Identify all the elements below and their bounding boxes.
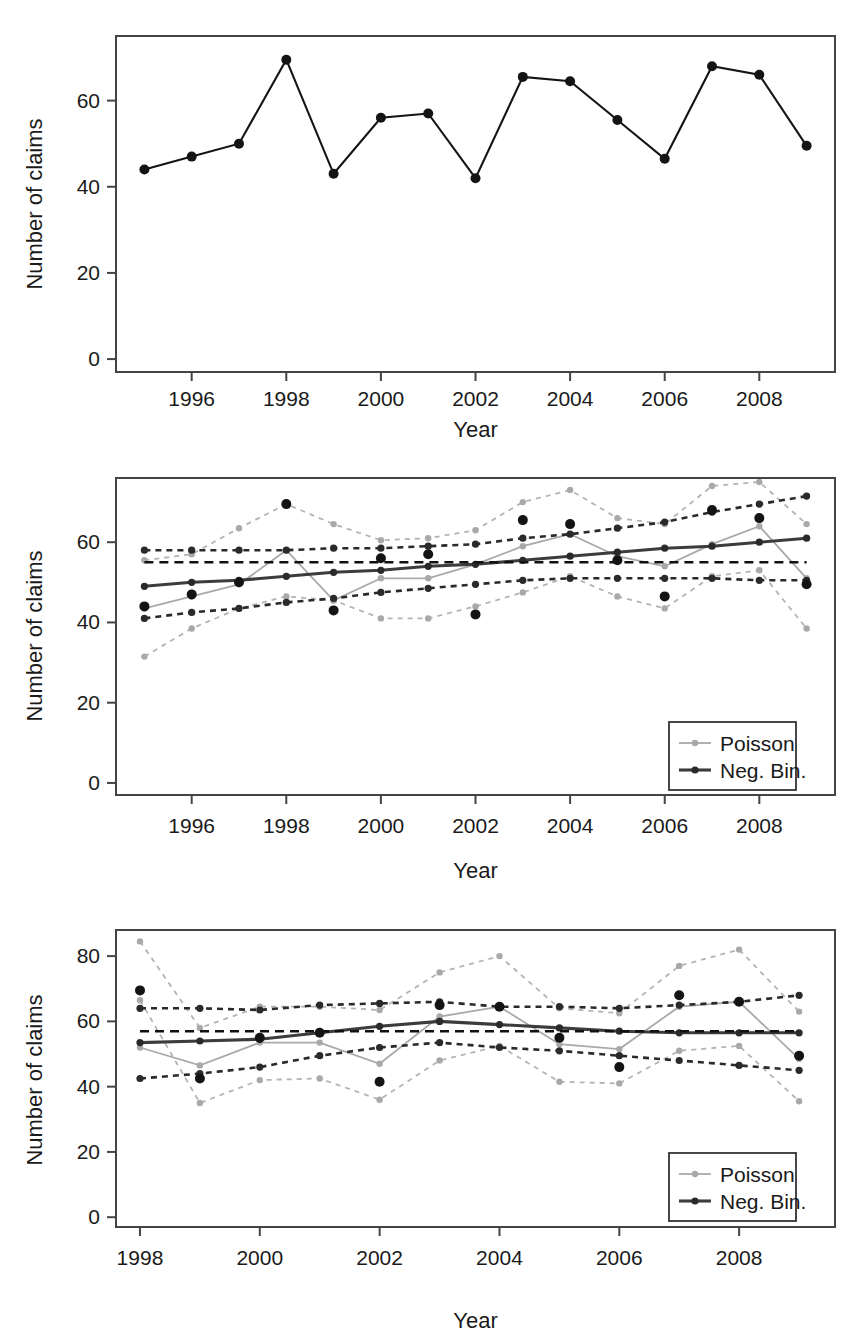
y-tick-label: 60 (77, 89, 100, 112)
y-axis-label: Number of claims (22, 994, 47, 1165)
data-point (283, 593, 289, 599)
y-axis-label: Number of claims (22, 118, 47, 289)
data-point (556, 1047, 563, 1054)
data-point (139, 601, 149, 611)
data-point (255, 1033, 265, 1043)
data-point (554, 1033, 564, 1043)
panel-observed-canvas: 02040601996199820002002200420062008YearN… (0, 0, 858, 450)
x-tick-label: 2006 (641, 387, 688, 410)
series-line (140, 1000, 799, 1103)
panel-out-of-sample: 020406080199820002002200420062008YearNum… (0, 890, 858, 1341)
data-point (796, 1029, 803, 1036)
data-point (375, 1077, 385, 1087)
data-point (329, 169, 339, 179)
data-point (283, 547, 290, 554)
x-tick-label: 1998 (117, 1246, 164, 1269)
data-point (796, 1008, 802, 1014)
data-point (519, 577, 526, 584)
data-point (616, 1005, 623, 1012)
data-point (197, 1100, 203, 1106)
data-point (137, 997, 143, 1003)
data-point (802, 579, 812, 589)
data-point (676, 963, 682, 969)
data-point (425, 535, 431, 541)
data-point (139, 165, 149, 175)
legend-negbin-marker (691, 766, 698, 773)
x-tick-label: 2004 (547, 814, 594, 837)
data-point (425, 563, 432, 570)
data-point (236, 525, 242, 531)
data-point (756, 479, 762, 485)
panel-in-sample: 02040601996199820002002200420062008YearN… (0, 450, 858, 890)
data-point (196, 1037, 203, 1044)
data-point (376, 553, 386, 563)
data-point (378, 615, 384, 621)
data-point (803, 521, 809, 527)
data-point (496, 1044, 503, 1051)
y-tick-label: 40 (77, 1075, 100, 1098)
data-point (756, 501, 763, 508)
data-point (803, 493, 810, 500)
x-axis-label: Year (453, 1308, 497, 1333)
data-point (472, 581, 479, 588)
series-neg-bin-upper (136, 992, 802, 1014)
y-tick-label: 40 (77, 175, 100, 198)
data-point (661, 575, 668, 582)
data-point (256, 1006, 263, 1013)
data-point (736, 1062, 743, 1069)
legend-negbin-marker (691, 1197, 698, 1204)
data-point (330, 545, 337, 552)
data-point (283, 599, 290, 606)
data-point (567, 553, 574, 560)
data-point (377, 545, 384, 552)
data-point (803, 625, 809, 631)
data-point (329, 605, 339, 615)
legend: PoissonNeg. Bin. (669, 1153, 806, 1221)
panel-in-sample-canvas: 02040601996199820002002200420062008YearN… (0, 450, 858, 890)
x-tick-label: 2002 (356, 1246, 403, 1269)
data-point (520, 543, 526, 549)
x-tick-label: 2000 (358, 814, 405, 837)
data-point (376, 1097, 382, 1103)
data-point (425, 575, 431, 581)
data-point (316, 1002, 323, 1009)
data-point (660, 154, 670, 164)
series-layer (139, 479, 811, 660)
x-tick-label: 2008 (736, 387, 783, 410)
data-point (471, 609, 481, 619)
series-line (140, 1043, 799, 1079)
data-point (495, 1002, 505, 1012)
data-point (472, 603, 478, 609)
data-point (195, 1074, 205, 1084)
data-point (518, 72, 528, 82)
data-point (187, 589, 197, 599)
y-axis-label: Number of claims (22, 550, 47, 721)
data-point (317, 1039, 323, 1045)
y-tick-label: 20 (77, 1140, 100, 1163)
data-point (425, 585, 432, 592)
data-point (567, 487, 573, 493)
data-point (135, 985, 145, 995)
data-point (616, 1080, 622, 1086)
data-point (330, 595, 337, 602)
x-tick-label: 1998 (263, 814, 310, 837)
data-point (234, 139, 244, 149)
series-layer (139, 55, 811, 184)
data-point (802, 141, 812, 151)
data-point (376, 1000, 383, 1007)
data-point (423, 109, 433, 119)
data-point (188, 579, 195, 586)
data-point (235, 605, 242, 612)
data-point (756, 567, 762, 573)
data-point (234, 577, 244, 587)
x-tick-label: 1998 (263, 387, 310, 410)
data-point (188, 547, 195, 554)
series-line (140, 941, 799, 1028)
data-point (614, 515, 620, 521)
data-point (756, 539, 763, 546)
data-point (496, 1021, 503, 1028)
data-point (794, 1051, 804, 1061)
data-point (376, 1007, 382, 1013)
y-tick-label: 0 (88, 771, 100, 794)
data-point (708, 575, 715, 582)
